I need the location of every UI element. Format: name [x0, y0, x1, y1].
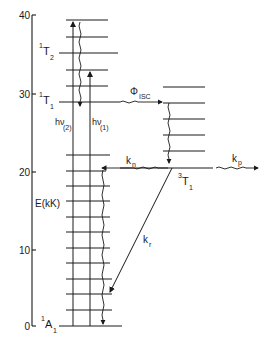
- axis-label: E(kK): [35, 198, 60, 209]
- tick-label-10: 10: [19, 245, 31, 256]
- tick-label-20: 20: [19, 167, 31, 178]
- triplet-relaxation-wavy-arrow: [168, 103, 170, 163]
- svg-text:T: T: [182, 175, 189, 187]
- isc-wavy-arrow: [120, 101, 162, 103]
- label-kr: k r: [143, 234, 152, 248]
- kr-arrow: [110, 168, 172, 292]
- tick-label-30: 30: [19, 89, 31, 100]
- tick-label-0: 0: [24, 321, 30, 332]
- svg-text:T: T: [43, 94, 50, 106]
- label-kn: k n: [126, 155, 136, 168]
- state-label-1A1: 1 A 1: [41, 315, 57, 334]
- svg-text:1: 1: [189, 184, 193, 191]
- svg-text:(2): (2): [63, 124, 72, 132]
- label-hv2: hν (2): [55, 117, 72, 132]
- svg-text:2: 2: [50, 54, 54, 61]
- svg-text:p: p: [238, 159, 242, 167]
- svg-text:Φ: Φ: [130, 86, 138, 97]
- svg-text:T: T: [43, 45, 50, 57]
- state-label-1T1: 1 T 1: [39, 91, 54, 110]
- svg-text:n: n: [132, 161, 136, 168]
- state-label-1T2: 1 T 2: [39, 42, 54, 61]
- svg-text:ISC: ISC: [139, 93, 151, 100]
- svg-text:(1): (1): [100, 124, 109, 132]
- label-kp: k p: [232, 153, 242, 167]
- svg-text:A: A: [45, 318, 53, 330]
- svg-text:r: r: [149, 241, 152, 248]
- kp-wavy-arrow: [216, 167, 258, 169]
- state-label-3T1: 3 T 1: [178, 172, 193, 191]
- ground-relaxation-wavy-arrow: [102, 170, 104, 324]
- label-phi-isc: Φ ISC: [130, 86, 151, 100]
- svg-text:1: 1: [50, 103, 54, 110]
- jablonski-diagram: 40 30 20 10 0 E(kK) 1 T: [0, 0, 270, 343]
- tick-label-40: 40: [19, 10, 31, 21]
- internal-conversion-wavy-arrow: [79, 22, 81, 106]
- energy-axis: [32, 15, 36, 326]
- label-hv1: hν (1): [92, 117, 109, 132]
- triplet-levels: [120, 87, 213, 168]
- svg-text:1: 1: [53, 327, 57, 334]
